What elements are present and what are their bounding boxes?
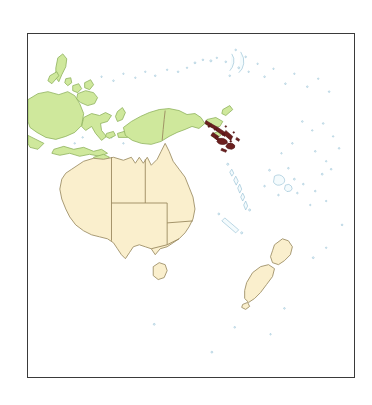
solomon-speck-6 bbox=[233, 132, 235, 134]
map-figure: Solomon Islands bbox=[0, 0, 372, 405]
map-canvas bbox=[28, 34, 354, 377]
solomon-speck-5 bbox=[225, 126, 227, 128]
map-frame bbox=[27, 33, 355, 378]
solomon-makira bbox=[226, 143, 235, 149]
solomon-speck-1 bbox=[208, 126, 210, 128]
solomon-speck-3 bbox=[222, 134, 224, 136]
solomon-speck-2 bbox=[214, 129, 216, 131]
land-borneo bbox=[28, 92, 84, 140]
solomon-speck-4 bbox=[230, 140, 232, 142]
